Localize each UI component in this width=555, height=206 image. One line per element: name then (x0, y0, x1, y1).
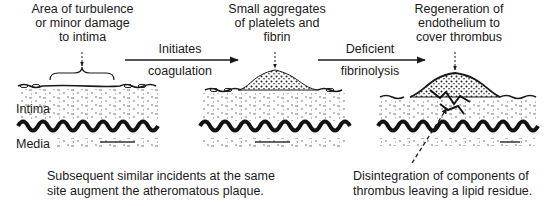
caption-line: Disintegration of components of (353, 169, 532, 184)
caption-line: thrombus leaving a lipid residue. (353, 184, 532, 199)
arrow-1-label-below: coagulation (140, 64, 220, 78)
label-line: cover thrombus (404, 30, 514, 44)
intima-label: Intima (16, 102, 50, 116)
label-line: endothelium to (404, 16, 514, 30)
label-line: to intima (20, 30, 145, 44)
stage-2-label: Small aggregates of platelets and fibrin (222, 2, 332, 44)
media-label: Media (16, 137, 50, 151)
label-line: fibrin (222, 30, 332, 44)
label-line: Area of turbulence (20, 2, 145, 16)
label-line: Regeneration of (404, 2, 514, 16)
panel-2-vessel-wall (200, 52, 350, 148)
stage-3-label: Regeneration of endothelium to cover thr… (404, 2, 514, 44)
arrow-1-label-above: Initiates (140, 42, 220, 56)
caption-line: site augment the atheromatous plaque. (47, 184, 275, 199)
arrow-2-label-below: fibrinolysis (330, 64, 410, 78)
stage-1-label: Area of turbulence or minor damage to in… (20, 2, 145, 44)
right-caption: Disintegration of components of thrombus… (353, 169, 532, 199)
left-caption: Subsequent similar incidents at the same… (47, 169, 275, 199)
label-line: or minor damage (20, 16, 145, 30)
arrow-2-label-above: Deficient (330, 42, 410, 56)
label-line: Small aggregates (222, 2, 332, 16)
panel-1-vessel-wall (18, 52, 160, 148)
label-line: of platelets and (222, 16, 332, 30)
brace-icon (50, 67, 114, 80)
caption-line: Subsequent similar incidents at the same (47, 169, 275, 184)
